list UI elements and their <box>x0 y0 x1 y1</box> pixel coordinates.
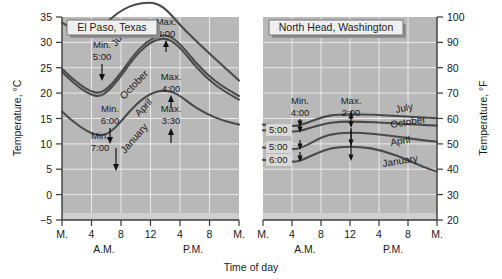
left-pm-label: P.M. <box>183 243 203 255</box>
left-y-tick-label: 10 <box>40 138 52 150</box>
annotation-kind: Max. <box>161 71 182 82</box>
right-y-tick-label: 80 <box>447 62 459 74</box>
left-panel-title-text: El Paso, Texas <box>77 21 146 33</box>
left-y-tick-labels: 35 30 25 20 15 10 5 0 −5 <box>40 11 52 226</box>
left-x-tick-label: 8 <box>118 228 124 240</box>
right-y-tick-label: 20 <box>447 214 459 226</box>
right-y-tick-label: 40 <box>447 163 459 175</box>
left-y-tick-label: −5 <box>40 214 52 226</box>
right-y-axis-title: Temperature, °F <box>477 80 489 155</box>
annotation-time: 6:00 <box>101 115 120 126</box>
right-y-tick-label: 60 <box>447 113 459 125</box>
right-x-ticks <box>263 220 437 226</box>
right-y-tick-label: 100 <box>447 11 465 23</box>
left-y-tick-label: 5 <box>46 163 52 175</box>
annotation-time: 4:00 <box>291 107 310 118</box>
right-x-tick-label: M. <box>257 228 269 240</box>
annotation-kind: Min. <box>91 130 109 141</box>
right-pm-label: P.M. <box>383 243 403 255</box>
left-y-tick-label: 15 <box>40 113 52 125</box>
left-y-ticks <box>56 17 62 220</box>
left-x-tick-label: M. <box>56 228 68 240</box>
x-axis-title: Time of day <box>224 261 279 273</box>
right-y-tick-label: 30 <box>447 189 459 201</box>
right-am-label: A.M. <box>294 243 316 255</box>
right-panel-title-text: North Head, Washington <box>279 21 394 33</box>
left-x-tick-label: 4 <box>177 228 183 240</box>
right-x-tick-label: 4 <box>289 228 295 240</box>
right-x-tick-label: 8 <box>318 228 324 240</box>
annotation-time: 7:00 <box>91 142 110 153</box>
left-axis-band <box>62 213 239 220</box>
right-y-tick-label: 70 <box>447 87 459 99</box>
annotation-kind: Max. <box>341 95 362 106</box>
right-x-tick-labels: M. 4 8 12 4 8 M. A.M. P.M. <box>257 228 443 255</box>
annotation-kind: Max. <box>161 103 182 114</box>
annotation-time: 5:00 <box>269 141 288 152</box>
left-y-tick-label: 0 <box>46 189 52 201</box>
left-y-tick-label: 20 <box>40 87 52 99</box>
annotation-time: 5:00 <box>269 124 288 135</box>
right-y-tick-label: 90 <box>447 36 459 48</box>
annotation-time: 3:30 <box>162 115 181 126</box>
left-x-tick-label: 4 <box>89 228 95 240</box>
left-x-tick-label: 12 <box>145 228 157 240</box>
right-x-tick-label: 4 <box>376 228 382 240</box>
right-x-tick-label: 8 <box>405 228 411 240</box>
right-y-tick-labels: 100 90 80 70 60 50 40 30 20 <box>447 11 465 226</box>
annotation-kind: Min. <box>101 103 119 114</box>
temperature-figure: 35 30 25 20 15 10 5 0 −5 M. 4 8 12 4 <box>0 0 502 279</box>
right-panel-title: North Head, Washington <box>269 20 406 38</box>
left-y-tick-label: 25 <box>40 62 52 74</box>
annotation-kind: Min. <box>291 95 309 106</box>
annotation-time: 4:00 <box>162 83 181 94</box>
annotation-kind: Min. <box>93 39 111 50</box>
left-y-axis-title: Temperature, °C <box>11 79 23 156</box>
left-x-tick-label: M. <box>233 228 245 240</box>
right-axis-band <box>263 213 437 220</box>
left-panel: 35 30 25 20 15 10 5 0 −5 M. 4 8 12 4 <box>11 3 245 255</box>
right-x-tick-label: 12 <box>344 228 356 240</box>
left-y-tick-label: 30 <box>40 36 52 48</box>
annotation-time: 5:00 <box>93 51 112 62</box>
left-y-tick-label: 35 <box>40 11 52 23</box>
left-panel-title: El Paso, Texas <box>67 20 160 38</box>
left-x-tick-label: 8 <box>207 228 213 240</box>
right-x-tick-label: M. <box>431 228 443 240</box>
left-x-ticks <box>62 220 239 226</box>
left-am-label: A.M. <box>93 243 115 255</box>
right-panel: 100 90 80 70 60 50 40 30 20 M. 4 8 12 4 <box>257 11 489 255</box>
left-x-tick-labels: M. 4 8 12 4 8 M. A.M. P.M. <box>56 228 245 255</box>
right-y-tick-label: 50 <box>447 138 459 150</box>
annotation-time: 6:00 <box>269 154 288 165</box>
